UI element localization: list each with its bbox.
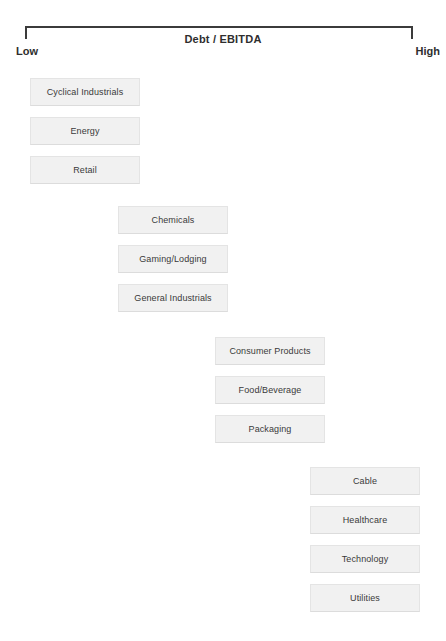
sector-box-label: Consumer Products: [229, 346, 310, 356]
sector-box[interactable]: Technology: [310, 545, 420, 573]
sector-box[interactable]: Energy: [30, 117, 140, 145]
axis-title: Debt / EBITDA: [0, 33, 446, 45]
sector-box[interactable]: Food/Beverage: [215, 376, 325, 404]
axis-label-low: Low: [16, 45, 38, 57]
sector-box-label: Cable: [353, 476, 377, 486]
sector-box[interactable]: Utilities: [310, 584, 420, 612]
sector-box[interactable]: Consumer Products: [215, 337, 325, 365]
sector-box-label: Food/Beverage: [239, 385, 302, 395]
sector-box[interactable]: Packaging: [215, 415, 325, 443]
sector-box-label: Healthcare: [343, 515, 388, 525]
sector-box[interactable]: Chemicals: [118, 206, 228, 234]
leverage-spectrum-chart: Debt / EBITDA Low High Cyclical Industri…: [0, 0, 446, 641]
sector-box-label: Retail: [73, 165, 97, 175]
sector-box-label: Energy: [70, 126, 99, 136]
sector-box-label: General Industrials: [134, 293, 211, 303]
sector-box[interactable]: Retail: [30, 156, 140, 184]
sector-box[interactable]: Cyclical Industrials: [30, 78, 140, 106]
sector-box[interactable]: Cable: [310, 467, 420, 495]
axis-label-high: High: [416, 45, 440, 57]
sector-box-label: Chemicals: [152, 215, 195, 225]
sector-box-label: Packaging: [249, 424, 292, 434]
sector-box-label: Utilities: [350, 593, 380, 603]
sector-box-label: Technology: [342, 554, 389, 564]
sector-box-label: Cyclical Industrials: [47, 87, 124, 97]
sector-box[interactable]: Gaming/Lodging: [118, 245, 228, 273]
sector-box[interactable]: General Industrials: [118, 284, 228, 312]
sector-box-label: Gaming/Lodging: [139, 254, 206, 264]
sector-box[interactable]: Healthcare: [310, 506, 420, 534]
